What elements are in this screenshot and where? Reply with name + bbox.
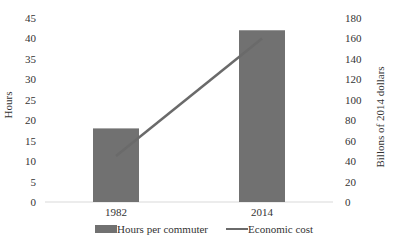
left-tick-label: 40 <box>25 32 37 44</box>
right-axis-ticks: 020406080100120140160180 <box>345 12 362 208</box>
left-axis-title: Hours <box>2 92 14 119</box>
legend-item-hours: Hours per commuter <box>95 223 208 235</box>
bar-2014 <box>239 30 285 202</box>
left-tick-label: 25 <box>25 94 37 106</box>
right-tick-label: 120 <box>345 73 362 85</box>
right-tick-label: 0 <box>345 196 351 208</box>
left-tick-label: 15 <box>25 135 37 147</box>
right-tick-label: 100 <box>345 94 362 106</box>
x-axis-labels: 19822014 <box>105 206 274 218</box>
left-axis-ticks: 051015202530354045 <box>25 12 37 208</box>
right-tick-label: 60 <box>345 135 357 147</box>
right-axis-title: Billons of 2014 dollars <box>374 66 386 167</box>
x-tick-label: 1982 <box>105 206 127 218</box>
left-tick-label: 30 <box>25 73 37 85</box>
line-swatch-icon <box>226 228 248 230</box>
right-tick-label: 40 <box>345 155 357 167</box>
bar-1982 <box>93 128 139 202</box>
legend-label-hours: Hours per commuter <box>117 223 208 235</box>
left-tick-label: 20 <box>25 114 37 126</box>
left-tick-label: 45 <box>25 12 37 24</box>
right-tick-label: 180 <box>345 12 362 24</box>
right-tick-label: 160 <box>345 32 362 44</box>
x-tick-label: 2014 <box>251 206 274 218</box>
chart-legend: Hours per commuter Economic cost <box>95 223 331 235</box>
legend-item-cost: Economic cost <box>226 223 313 235</box>
bar-swatch-icon <box>95 225 117 233</box>
right-tick-label: 80 <box>345 114 357 126</box>
left-tick-label: 0 <box>31 196 37 208</box>
legend-label-cost: Economic cost <box>248 223 313 235</box>
bar-series-hours <box>93 30 285 202</box>
left-tick-label: 35 <box>25 53 37 65</box>
combo-chart: 051015202530354045 020406080100120140160… <box>0 0 393 240</box>
left-tick-label: 10 <box>25 155 37 167</box>
right-tick-label: 140 <box>345 53 362 65</box>
right-tick-label: 20 <box>345 176 357 188</box>
left-tick-label: 5 <box>31 176 37 188</box>
